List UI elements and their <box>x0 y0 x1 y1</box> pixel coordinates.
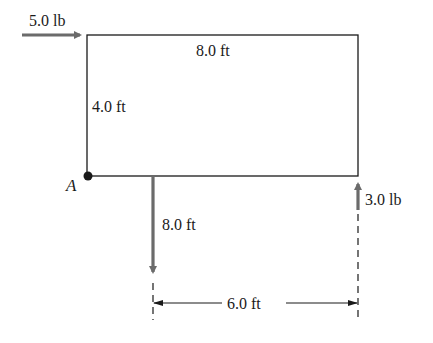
height-dimension-label: 4.0 ft <box>92 98 126 115</box>
span-dimension-label: 6.0 ft <box>227 295 261 312</box>
point-a-label: A <box>65 176 77 195</box>
point-a-dot <box>84 172 93 181</box>
upward-force-label: 3.0 lb <box>365 191 401 208</box>
force-diagram: A 8.0 ft 4.0 ft 5.0 lb 8.0 ft 3.0 lb 6.0… <box>0 0 433 343</box>
horizontal-force-label: 5.0 lb <box>29 12 65 29</box>
downward-force-distance-label: 8.0 ft <box>162 216 196 233</box>
width-dimension-label: 8.0 ft <box>196 42 230 59</box>
